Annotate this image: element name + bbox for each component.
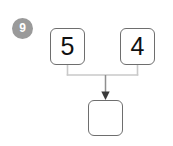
result-answer-box[interactable] [88, 100, 123, 136]
addend-box-right: 4 [120, 28, 155, 65]
addend-value-left: 5 [61, 34, 75, 59]
question-number-badge: 9 [12, 18, 33, 39]
addend-box-left: 5 [50, 28, 85, 65]
diagram-canvas: 9 5 4 [0, 0, 173, 146]
addend-value-right: 4 [131, 34, 145, 59]
